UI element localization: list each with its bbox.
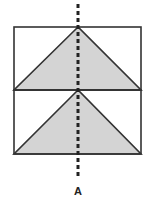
top-panel: [14, 27, 141, 90]
axis-label: A: [72, 186, 84, 197]
top-triangle: [14, 27, 141, 90]
symmetry-diagram: [0, 0, 160, 197]
